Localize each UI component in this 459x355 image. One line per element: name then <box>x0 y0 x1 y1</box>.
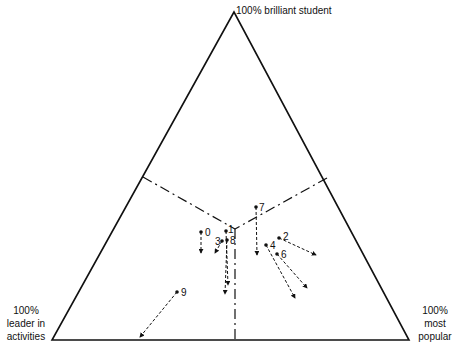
trajectory-arrow <box>140 292 177 337</box>
vertex-label-leader-in-activities: 100% leader in activities <box>4 304 48 343</box>
divider-left <box>143 177 235 229</box>
point-label: 8 <box>230 235 236 246</box>
point-marker <box>220 239 224 243</box>
point-marker <box>275 252 279 256</box>
label-line: popular <box>414 330 456 343</box>
point-label: 6 <box>281 249 287 260</box>
label-line: most <box>414 317 456 330</box>
point-label: 1 <box>228 224 234 235</box>
point-label: 2 <box>283 231 289 242</box>
point-label: 9 <box>181 287 187 298</box>
label-line: 100% <box>414 304 456 317</box>
data-points: 012346789 <box>140 202 316 337</box>
divider-right <box>235 178 327 229</box>
vertex-label-brilliant-student: 100% brilliant student <box>236 4 332 17</box>
point-marker <box>277 236 281 240</box>
label-line: activities <box>4 330 48 343</box>
point-marker <box>175 290 179 294</box>
point-label: 4 <box>270 240 276 251</box>
ternary-diagram: 012346789 <box>0 0 459 355</box>
data-point-7: 7 <box>254 202 265 255</box>
point-label: 0 <box>205 227 211 238</box>
data-point-6: 6 <box>275 249 307 288</box>
point-label: 3 <box>215 236 221 247</box>
point-marker <box>264 243 268 247</box>
label-line: leader in <box>4 317 48 330</box>
triangle-outline <box>52 12 409 340</box>
data-point-0: 0 <box>199 227 211 253</box>
label-line: 100% <box>4 304 48 317</box>
vertex-label-most-popular: 100% most popular <box>414 304 456 343</box>
point-label: 7 <box>259 202 265 213</box>
trajectory-arrow <box>256 207 257 255</box>
point-marker <box>199 230 203 234</box>
point-marker <box>225 238 229 242</box>
region-dividers <box>143 177 327 340</box>
data-point-9: 9 <box>140 287 187 337</box>
data-point-3: 3 <box>215 236 224 253</box>
point-marker <box>254 205 258 209</box>
